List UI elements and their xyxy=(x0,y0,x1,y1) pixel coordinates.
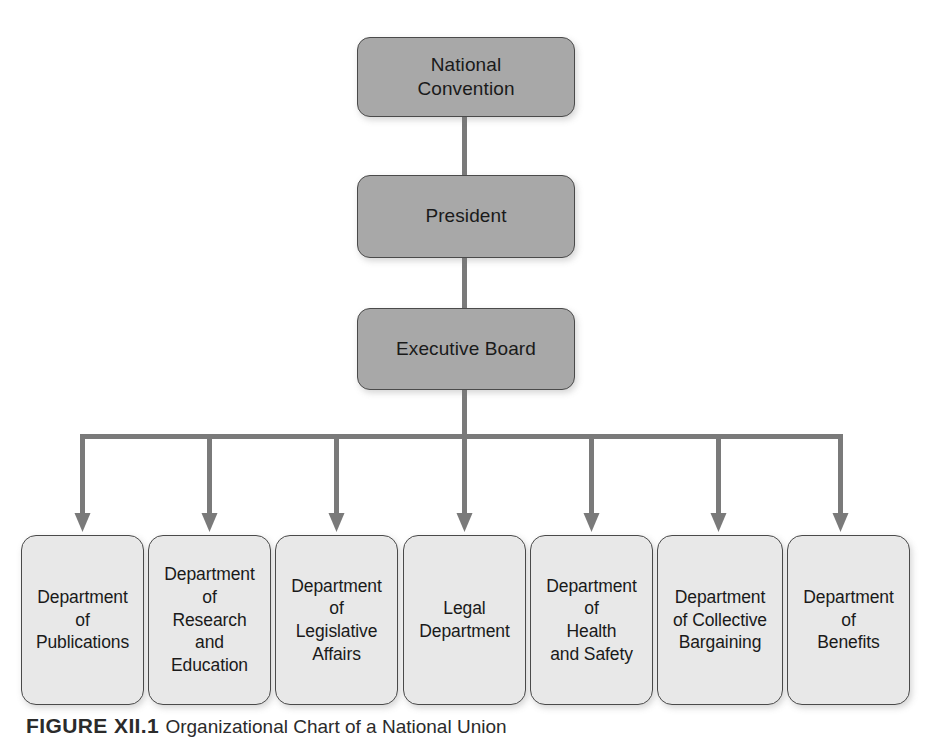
arrowhead-3 xyxy=(329,513,345,532)
arrowhead-2 xyxy=(202,513,218,532)
node-label: Department of Collective Bargaining xyxy=(662,586,778,654)
node-label: Department of Publications xyxy=(26,586,139,654)
connector-horizontal-bus xyxy=(80,434,843,439)
arrowhead-7 xyxy=(833,513,849,532)
node-department-legislative-affairs[interactable]: Department of Legislative Affairs xyxy=(275,535,398,705)
node-department-collective-bargaining[interactable]: Department of Collective Bargaining xyxy=(657,535,783,705)
drop-line-4 xyxy=(462,434,467,516)
arrowhead-5 xyxy=(584,513,600,532)
drop-line-5 xyxy=(589,434,594,516)
figure-caption-text: Organizational Chart of a National Union xyxy=(165,716,506,737)
arrowhead-6 xyxy=(711,513,727,532)
figure-caption: FIGURE XII.1 Organizational Chart of a N… xyxy=(26,714,507,738)
drop-line-2 xyxy=(207,434,212,516)
node-department-benefits[interactable]: Department of Benefits xyxy=(787,535,910,705)
node-department-research-and-education[interactable]: Department of Research and Education xyxy=(148,535,271,705)
node-label: Executive Board xyxy=(358,337,574,361)
node-label: Department of Health and Safety xyxy=(535,575,648,666)
drop-line-1 xyxy=(80,434,85,516)
node-label: Department of Benefits xyxy=(792,586,905,654)
drop-line-7 xyxy=(838,434,843,516)
connector-board-bus xyxy=(462,389,467,440)
node-president[interactable]: President xyxy=(357,175,575,258)
drop-line-3 xyxy=(334,434,339,516)
node-label: President xyxy=(358,204,574,228)
node-label: Department of Legislative Affairs xyxy=(280,575,393,666)
connector-president-board xyxy=(462,257,467,309)
arrowhead-4 xyxy=(457,513,473,532)
arrowhead-1 xyxy=(75,513,91,532)
drop-line-6 xyxy=(716,434,721,516)
connector-convention-president xyxy=(462,117,467,176)
node-department-publications[interactable]: Department of Publications xyxy=(21,535,144,705)
node-label: Legal Department xyxy=(408,597,521,643)
node-national-convention[interactable]: National Convention xyxy=(357,37,575,117)
figure-caption-label: FIGURE XII.1 xyxy=(26,714,159,737)
node-legal-department[interactable]: Legal Department xyxy=(403,535,526,705)
node-executive-board[interactable]: Executive Board xyxy=(357,308,575,390)
node-label: Department of Research and Education xyxy=(153,563,266,677)
node-department-health-and-safety[interactable]: Department of Health and Safety xyxy=(530,535,653,705)
node-label: National Convention xyxy=(358,53,574,102)
